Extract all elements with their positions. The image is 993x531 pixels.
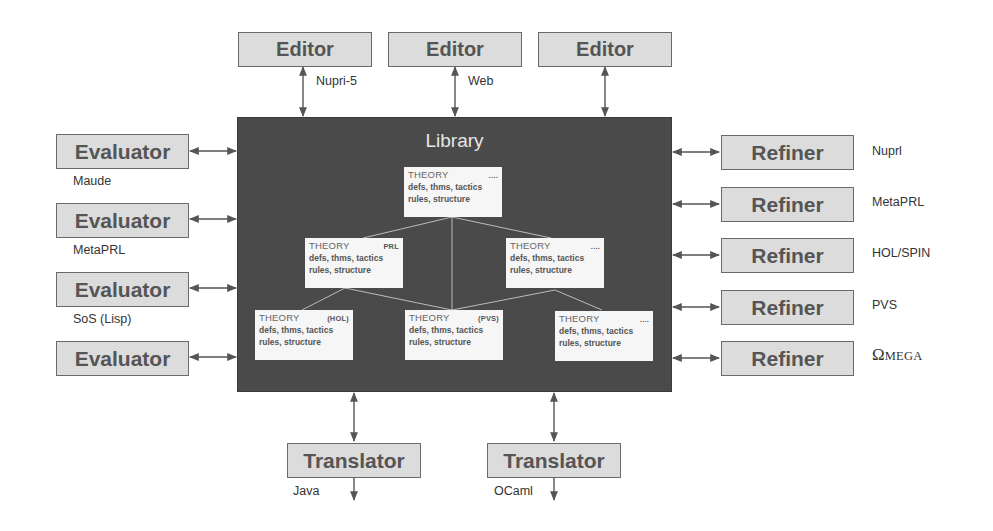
theory-box-right: THEORY.... defs, thms, tactics rules, st… (555, 311, 653, 361)
evaluator-label-sos: SoS (Lisp) (73, 312, 131, 326)
theory-line: defs, thms, tactics (510, 253, 600, 265)
omega-suffix: MEGA (885, 349, 923, 363)
theory-title: THEORY (408, 169, 449, 181)
theory-tag: (HOL) (327, 313, 349, 325)
theory-box-hol: THEORY(HOL) defs, thms, tactics rules, s… (255, 310, 353, 360)
theory-box-mid-right: THEORY.... defs, thms, tactics rules, st… (506, 238, 604, 288)
theory-line: defs, thms, tactics (309, 253, 399, 265)
translator-box-ocaml: Translator (487, 443, 621, 478)
refiner-box-holspin: Refiner (721, 238, 854, 273)
theory-title: THEORY (259, 312, 300, 324)
theory-line: defs, thms, tactics (259, 325, 349, 337)
refiner-box-omega: Refiner (721, 341, 854, 376)
evaluator-box-maude: Evaluator (56, 134, 189, 169)
theory-line: rules, structure (409, 337, 499, 349)
refiner-box-nuprl: Refiner (721, 135, 854, 170)
refiner-label-holspin: HOL/SPIN (872, 246, 930, 260)
theory-title: THEORY (510, 240, 551, 252)
theory-line: rules, structure (559, 338, 649, 350)
translator-box-java: Translator (287, 443, 421, 478)
evaluator-label-maude: Maude (73, 174, 111, 188)
refiner-box-pvs: Refiner (721, 290, 854, 325)
omega-symbol: Ω (872, 345, 885, 364)
translator-label-java: Java (293, 484, 319, 498)
theory-tag: .... (640, 314, 649, 326)
theory-title: THEORY (309, 240, 350, 252)
theory-box-prl: THEORYPRL defs, thms, tactics rules, str… (305, 238, 403, 288)
theory-tag: PRL (383, 241, 399, 253)
evaluator-box-4: Evaluator (56, 341, 189, 376)
theory-line: rules, structure (408, 194, 498, 206)
theory-line: defs, thms, tactics (408, 182, 498, 194)
theory-box-root: THEORY.... defs, thms, tactics rules, st… (404, 167, 502, 217)
theory-title: THEORY (559, 313, 600, 325)
theory-line: rules, structure (259, 337, 349, 349)
refiner-label-pvs: PVS (872, 298, 897, 312)
translator-label-ocaml: OCaml (494, 484, 533, 498)
theory-line: rules, structure (309, 265, 399, 277)
refiner-label-metaprl: MetaPRL (872, 195, 924, 209)
refiner-label-nuprl: Nuprl (872, 144, 902, 158)
evaluator-box-metaprl: Evaluator (56, 203, 189, 238)
theory-tag: .... (489, 170, 498, 182)
evaluator-label-metaprl: MetaPRL (73, 243, 125, 257)
theory-tag: (PVS) (478, 313, 499, 325)
theory-line: defs, thms, tactics (559, 326, 649, 338)
theory-line: defs, thms, tactics (409, 325, 499, 337)
refiner-box-metaprl: Refiner (721, 187, 854, 222)
theory-title: THEORY (409, 312, 450, 324)
theory-box-pvs: THEORY(PVS) defs, thms, tactics rules, s… (405, 310, 503, 360)
evaluator-box-sos: Evaluator (56, 272, 189, 307)
theory-line: rules, structure (510, 265, 600, 277)
theory-tag: .... (591, 241, 600, 253)
refiner-label-omega: ΩMEGA (872, 345, 923, 365)
